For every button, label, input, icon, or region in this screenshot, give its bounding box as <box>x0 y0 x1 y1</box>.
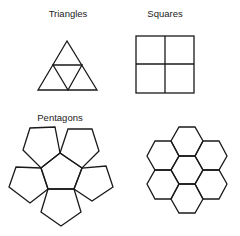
triangle-tiling <box>38 41 97 90</box>
hexagon-tiling <box>147 127 227 213</box>
square-tiling <box>136 36 194 93</box>
pentagon-arrangement <box>9 127 113 226</box>
tiling-diagram <box>0 0 240 236</box>
